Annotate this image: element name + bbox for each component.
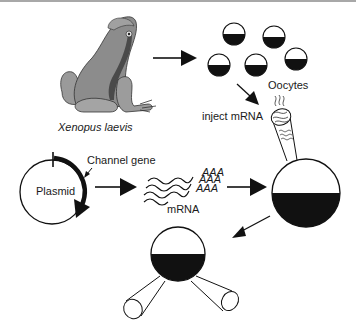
oocytes-label: Oocytes — [268, 79, 309, 91]
mrna-label: mRNA — [167, 203, 200, 215]
arrow-oocytes-to-inject — [237, 84, 259, 105]
species-label: Xenopus laevis — [57, 121, 133, 133]
xenopus-oocyte-expression-diagram: Xenopus laevis Oocytes inject mRNA Plasm… — [0, 0, 356, 333]
oocyte-icon — [207, 54, 231, 77]
arrow-oocyte-to-recording — [232, 216, 270, 238]
oocyte-icon — [262, 26, 286, 49]
electrode-left — [120, 276, 165, 322]
channel-gene-label: Channel gene — [87, 154, 156, 166]
polya-tail-label: AAA — [195, 182, 218, 194]
inject-label: inject mRNA — [202, 110, 264, 122]
plasmid-label: Plasmid — [36, 185, 75, 197]
frog-illustration — [61, 17, 156, 112]
arrow-plasmid-to-mrna — [95, 178, 137, 196]
arrow-mrna-to-oocyte — [227, 178, 267, 196]
recording-setup — [120, 227, 242, 322]
oocytes-group — [207, 23, 308, 77]
injected-oocyte — [270, 159, 342, 229]
oocyte-icon — [284, 48, 308, 71]
electrode-right — [191, 276, 242, 314]
mrna-strands — [144, 177, 193, 205]
oocyte-icon — [244, 54, 268, 77]
injection-pipette — [269, 95, 297, 161]
oocyte-icon — [222, 23, 246, 46]
pointer-arrow-channel-gene — [84, 168, 92, 178]
arrow-frog-to-oocytes — [153, 50, 197, 66]
